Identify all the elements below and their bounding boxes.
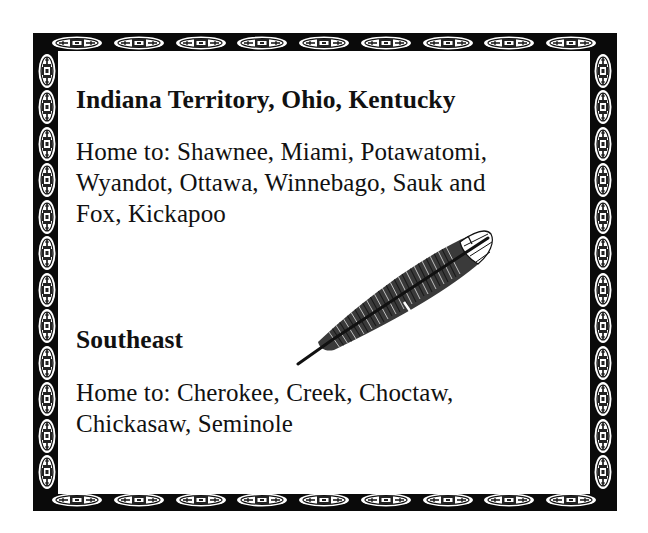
tribal-medallion-icon — [38, 345, 56, 381]
section-heading-southeast: Southeast — [76, 325, 183, 355]
tribal-medallion-icon — [422, 493, 474, 507]
tribal-medallion-icon — [38, 53, 56, 89]
tribal-medallion-icon — [594, 272, 612, 308]
tribal-medallion-icon — [594, 418, 612, 454]
border-left-column — [36, 53, 58, 490]
tribal-medallion-icon — [236, 36, 288, 50]
tribal-medallion-icon — [594, 89, 612, 125]
section-body-southeast: Home to: Cherokee, Creek, Choctaw, Chick… — [76, 377, 576, 439]
tribal-medallion-icon — [38, 89, 56, 125]
tribal-medallion-icon — [545, 493, 597, 507]
tribal-medallion-icon — [38, 418, 56, 454]
border-top-row — [51, 35, 597, 51]
tribal-medallion-icon — [51, 493, 103, 507]
section-heading-indiana-territory: Indiana Territory, Ohio, Kentucky — [76, 85, 456, 115]
tribal-medallion-icon — [360, 36, 412, 50]
body-line: Home to: Cherokee, Creek, Choctaw, — [76, 377, 576, 408]
border-right-column — [592, 53, 614, 490]
tribal-medallion-icon — [422, 36, 474, 50]
section-body-indiana-territory: Home to: Shawnee, Miami, Potawatomi, Wya… — [76, 136, 576, 229]
tribal-medallion-icon — [594, 126, 612, 162]
tribal-medallion-icon — [594, 345, 612, 381]
tribal-medallion-icon — [483, 36, 535, 50]
tribal-medallion-icon — [38, 381, 56, 417]
tribal-medallion-icon — [483, 493, 535, 507]
tribal-medallion-icon — [38, 454, 56, 490]
tribal-medallion-icon — [175, 493, 227, 507]
tribal-medallion-icon — [545, 36, 597, 50]
tribal-medallion-icon — [594, 381, 612, 417]
tribal-medallion-icon — [38, 308, 56, 344]
tribal-medallion-icon — [38, 272, 56, 308]
tribal-medallion-icon — [298, 493, 350, 507]
tribal-medallion-icon — [51, 36, 103, 50]
tribal-medallion-icon — [113, 36, 165, 50]
tribal-medallion-icon — [236, 493, 288, 507]
tribal-medallion-icon — [594, 454, 612, 490]
tribal-medallion-icon — [594, 53, 612, 89]
tribal-medallion-icon — [113, 493, 165, 507]
tribal-medallion-icon — [38, 126, 56, 162]
tribal-medallion-icon — [38, 162, 56, 198]
body-line: Home to: Shawnee, Miami, Potawatomi, — [76, 136, 576, 167]
tribal-medallion-icon — [594, 308, 612, 344]
border-bottom-row — [51, 492, 597, 508]
tribal-medallion-icon — [594, 162, 612, 198]
feather-icon — [292, 222, 498, 370]
body-line: Wyandot, Ottawa, Winnebago, Sauk and — [76, 167, 576, 198]
tribal-medallion-icon — [594, 235, 612, 271]
tribal-medallion-icon — [298, 36, 350, 50]
tribal-medallion-icon — [594, 199, 612, 235]
tribal-medallion-icon — [38, 235, 56, 271]
tribal-medallion-icon — [38, 199, 56, 235]
body-line: Chickasaw, Seminole — [76, 408, 576, 439]
tribal-medallion-icon — [175, 36, 227, 50]
tribal-medallion-icon — [360, 493, 412, 507]
